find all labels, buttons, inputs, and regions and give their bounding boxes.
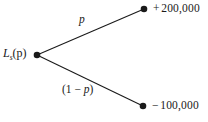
lower-prob-suffix: ) (90, 83, 94, 95)
root-label-base: L (3, 46, 10, 60)
lower-prob-variable: p (81, 83, 90, 95)
lower-prob-prefix: (1 (62, 83, 74, 95)
lower-payoff-sign: − (152, 99, 159, 111)
root-label-argument: (p) (13, 46, 27, 60)
upper-branch-line (37, 9, 144, 55)
upper-outcome-payoff-label: +200,000 (153, 3, 200, 15)
upper-payoff-value: 200,000 (161, 2, 200, 14)
upper-branch-probability-label: p (79, 14, 85, 26)
lower-branch-line (37, 55, 143, 106)
lower-outcome-payoff-label: −100,000 (152, 100, 199, 112)
root-node-label: Ls(p) (3, 47, 27, 62)
lower-outcome-node-dot (140, 103, 147, 110)
root-node-dot (34, 52, 41, 59)
lower-branch-probability-label: (1 − p) (62, 84, 93, 96)
upper-payoff-sign: + (153, 2, 160, 14)
lottery-decision-tree-diagram: Ls(p) p (1 − p) +200,000 −100,000 (0, 0, 208, 122)
upper-outcome-node-dot (141, 6, 148, 13)
lower-payoff-value: 100,000 (160, 99, 199, 111)
